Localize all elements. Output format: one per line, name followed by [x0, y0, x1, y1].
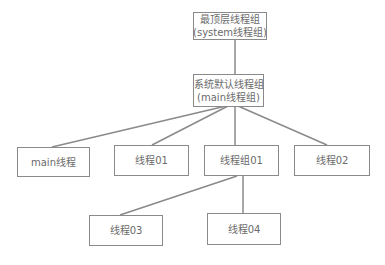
- node-label: 系统默认线程组: [194, 78, 264, 91]
- node-thread04: 线程04: [207, 213, 281, 245]
- node-main-thread-group: 系统默认线程组 (main线程组): [193, 74, 264, 107]
- edge-main-group-to-main-thread: [52, 106, 226, 147]
- edge-main-group-to-thread02: [238, 106, 327, 145]
- node-label: 线程03: [110, 224, 143, 237]
- node-thread-group01: 线程组01: [204, 145, 279, 176]
- node-thread02: 线程02: [294, 145, 370, 176]
- node-label: 最顶层线程组: [200, 13, 260, 26]
- node-sublabel: (main线程组): [197, 91, 260, 104]
- node-label: 线程02: [316, 154, 349, 167]
- node-label: 线程01: [135, 154, 168, 167]
- node-main-thread: main线程: [17, 147, 90, 177]
- edge-main-group-to-thread01: [152, 106, 228, 145]
- node-thread03: 线程03: [89, 215, 163, 246]
- node-label: 线程组01: [220, 154, 263, 167]
- node-label: 线程04: [228, 223, 261, 236]
- thread-group-tree-diagram: 最顶层线程组 (system线程组) 系统默认线程组 (main线程组) mai…: [0, 0, 385, 265]
- edge-group01-to-thread03: [120, 176, 237, 215]
- node-thread01: 线程01: [114, 145, 189, 176]
- node-system-thread-group: 最顶层线程组 (system线程组): [193, 12, 267, 40]
- node-label: main线程: [31, 156, 76, 169]
- node-sublabel: (system线程组): [193, 26, 267, 39]
